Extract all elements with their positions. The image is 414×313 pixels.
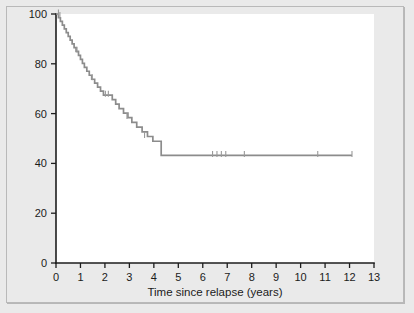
x-tick-label: 11 <box>319 271 330 283</box>
plot-area <box>56 14 374 263</box>
x-tick-label: 8 <box>249 271 255 283</box>
y-tick-label: 40 <box>35 157 47 169</box>
x-tick-label: 1 <box>77 271 83 283</box>
x-tick-label: 9 <box>273 271 279 283</box>
x-tick-label: 12 <box>343 271 355 283</box>
y-tick-label: 0 <box>41 257 47 269</box>
y-tick-label: 60 <box>35 108 47 120</box>
x-tick-label: 6 <box>200 271 206 283</box>
x-tick-label: 4 <box>151 271 157 283</box>
y-tick-label: 100 <box>29 8 47 20</box>
x-tick-label: 3 <box>126 271 132 283</box>
survival-chart: 020406080100 012345678910111213 Time sin… <box>0 0 414 313</box>
figure-container: 020406080100 012345678910111213 Time sin… <box>0 0 414 313</box>
x-tick-label: 2 <box>102 271 108 283</box>
x-axis-title: Time since relapse (years) <box>147 286 282 298</box>
y-tick-label: 20 <box>35 207 47 219</box>
y-axis: 020406080100 <box>29 8 56 269</box>
x-axis: 012345678910111213 <box>53 263 380 283</box>
x-tick-label: 10 <box>294 271 306 283</box>
x-tick-label: 7 <box>224 271 230 283</box>
x-tick-label: 0 <box>53 271 59 283</box>
x-tick-label: 13 <box>368 271 380 283</box>
y-tick-label: 80 <box>35 58 47 70</box>
x-tick-label: 5 <box>175 271 181 283</box>
